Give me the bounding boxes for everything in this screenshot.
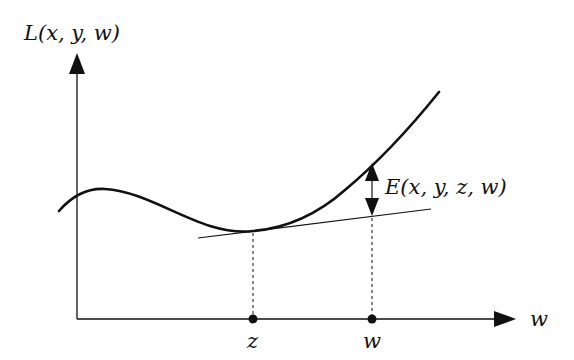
loss-curve [59,92,439,231]
arrow-down-icon [365,198,379,216]
z-tick-label: z [246,329,259,353]
w-tick-dot [368,315,377,324]
y-axis [69,53,85,319]
z-tick-dot [249,315,258,324]
x-axis-arrow-icon [494,311,516,327]
diagram-canvas: L(x, y, w) E(x, y, z, w) w z w [0,0,574,360]
w-tick-label: w [363,329,381,353]
y-axis-arrow-icon [69,53,85,74]
y-axis-label: L(x, y, w) [23,21,120,45]
error-label: E(x, y, z, w) [384,175,507,199]
x-axis [77,311,516,327]
x-axis-label: w [530,307,548,331]
